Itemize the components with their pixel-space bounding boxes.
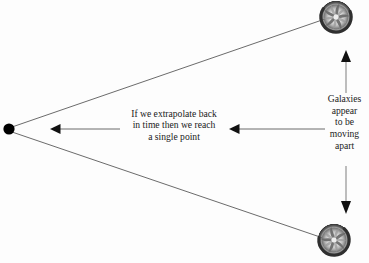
galaxies-line-1: Galaxies: [322, 93, 367, 105]
galaxies-line-3: to be: [322, 116, 367, 128]
down-arrow-head: [341, 201, 351, 214]
bottom-galaxy: [310, 216, 358, 263]
single-point-origin: [3, 123, 14, 134]
galaxies-line-4: moving: [322, 128, 367, 140]
galaxies-annotation: Galaxies appear to be moving apart: [322, 93, 367, 152]
up-arrow-head: [341, 50, 351, 62]
lower-sight-line: [12, 132, 323, 238]
left-arrow-head: [50, 124, 61, 134]
galaxies-line-2: appear: [322, 105, 367, 117]
extrapolate-annotation: If we extrapolate back in time then we r…: [118, 108, 230, 142]
extrapolate-line-1: If we extrapolate back: [118, 108, 230, 119]
expanding-universe-diagram: If we extrapolate back in time then we r…: [0, 0, 369, 263]
extrapolate-line-3: a single point: [118, 131, 230, 142]
middle-arrow-head: [229, 124, 240, 134]
galaxies-line-5: apart: [322, 140, 367, 152]
extrapolate-line-2: in time then we reach: [118, 119, 230, 130]
